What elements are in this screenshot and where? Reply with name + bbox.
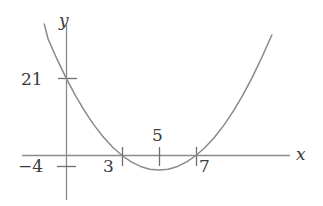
x-axis-tick-label-5: 5 (152, 127, 163, 144)
parabola-plot (0, 0, 323, 206)
parabola-curve (44, 24, 272, 170)
parabola-figure: 21 −4 3 5 7 x y (0, 0, 323, 206)
x-axis-tick-label-neg4: −4 (18, 158, 43, 175)
y-axis-label: y (59, 12, 69, 29)
x-axis-tick-label-7: 7 (199, 158, 210, 175)
x-axis-tick-label-3: 3 (103, 158, 114, 175)
y-axis-tick-label-21: 21 (21, 71, 43, 88)
x-axis-label: x (296, 146, 306, 163)
